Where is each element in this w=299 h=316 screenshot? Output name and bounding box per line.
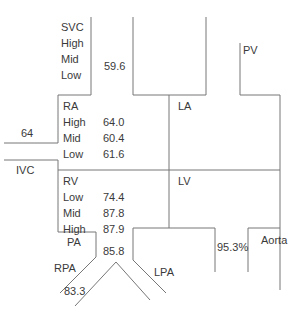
rv-row-high: High [63, 223, 86, 236]
pv-label: PV [243, 44, 258, 57]
svc-row-low: Low [61, 69, 81, 82]
rv-row-mid: Mid [63, 207, 81, 220]
lv-label: LV [178, 175, 191, 188]
aorta-value: 95.3% [217, 241, 248, 254]
svc-label: SVC [61, 21, 84, 34]
svc-row-mid: Mid [61, 53, 79, 66]
aorta-label: Aorta [261, 234, 287, 247]
rv-row-low: Low [63, 191, 83, 204]
rpa-value: 83.3 [64, 285, 85, 298]
ra-side-value: 64 [21, 127, 33, 140]
la-label: LA [178, 100, 191, 113]
rv-value-mid: 87.8 [103, 207, 124, 220]
ra-label: RA [63, 100, 78, 113]
pa-label: PA [67, 236, 81, 249]
rpa-label: RPA [54, 262, 76, 275]
lpa-outer [133, 228, 215, 272]
rv-value-low: 74.4 [103, 191, 124, 204]
ra-value-high: 64.0 [103, 116, 124, 129]
rv-label: RV [63, 175, 78, 188]
ivc-outline [4, 160, 280, 170]
svc-row-high: High [61, 37, 84, 50]
ra-row-low: Low [63, 148, 83, 161]
svc-value: 59.6 [104, 60, 125, 73]
lpa-label: LPA [154, 266, 174, 279]
ivc-label: IVC [16, 164, 34, 177]
pa-inner [75, 262, 150, 306]
rv-value-high: 87.9 [103, 223, 124, 236]
svc-right-wall [133, 17, 206, 95]
pa-value: 85.8 [103, 245, 124, 258]
ra-row-high: High [63, 116, 86, 129]
ra-value-mid: 60.4 [103, 132, 124, 145]
ra-row-mid: Mid [63, 132, 81, 145]
ra-value-low: 61.6 [103, 148, 124, 161]
